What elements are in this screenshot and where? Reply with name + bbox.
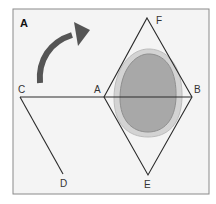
point-label-b: B (194, 84, 201, 95)
point-label-c: C (18, 84, 25, 95)
point-label-d: D (60, 178, 67, 189)
diagram: A C A B F D E (0, 0, 216, 204)
point-label-f: F (156, 15, 162, 26)
point-label-a: A (94, 84, 101, 95)
panel-label: A (20, 17, 28, 29)
point-label-e: E (144, 179, 151, 190)
